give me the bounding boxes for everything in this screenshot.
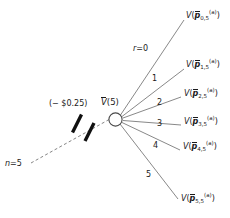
branch-index-0: r=0 xyxy=(133,45,148,53)
terminal-1-func: V xyxy=(186,60,191,69)
cost-label: (− $0.25) xyxy=(49,100,87,108)
terminal-3-func: V xyxy=(184,117,189,126)
terminal-label-5: V(p5,5(a)) xyxy=(181,195,215,203)
stage-n-eq: = xyxy=(10,159,17,168)
terminal-1-superscript: (a) xyxy=(209,58,217,64)
terminal-5-superscript: (a) xyxy=(204,192,212,198)
stage-label-n: n=5 xyxy=(5,160,22,168)
branch-index-3: 3 xyxy=(157,120,162,128)
branch-index-1: 1 xyxy=(152,75,157,83)
branch-r-eq: = xyxy=(136,44,143,53)
terminal-0-subscript: 0,5 xyxy=(200,15,209,21)
branch-line-2 xyxy=(123,97,181,118)
terminal-5-subscript: 5,5 xyxy=(195,198,204,204)
terminal-4-func: V xyxy=(183,142,188,151)
terminal-label-4: V(p4,5(a)) xyxy=(183,143,217,151)
terminal-4-superscript: (a) xyxy=(206,140,214,146)
stage-n-value: 5 xyxy=(17,159,22,168)
tick-mark-2-icon xyxy=(85,123,94,141)
terminal-label-2: V(p2,5(a)) xyxy=(184,90,218,98)
root-node-label: V(5) xyxy=(101,98,119,107)
terminal-4-subscript: 4,5 xyxy=(197,146,206,152)
scenario-tree-diagram: V(5) (− $0.25) n=5 r=0 1 2 3 4 5 V(p0,5(… xyxy=(0,0,230,218)
root-node-V-symbol: V xyxy=(101,98,107,107)
terminal-2-superscript: (a) xyxy=(207,87,215,93)
branch-line-0 xyxy=(121,20,185,115)
terminal-1-subscript: 1,5 xyxy=(200,64,209,70)
incoming-dashed-edge xyxy=(31,119,110,163)
branch-index-5: 5 xyxy=(146,171,151,179)
root-node-circle xyxy=(109,113,122,126)
terminal-label-3: V(p3,5(a)) xyxy=(184,118,218,126)
branch-r-value: 0 xyxy=(143,44,148,53)
terminal-label-0: V(p0,5(a)) xyxy=(186,12,220,20)
branch-line-4 xyxy=(122,123,180,151)
terminal-label-1: V(p1,5(a)) xyxy=(186,61,220,69)
terminal-2-func: V xyxy=(184,89,189,98)
terminal-3-superscript: (a) xyxy=(207,115,215,121)
terminal-3-subscript: 3,5 xyxy=(198,121,207,127)
terminal-0-func: V xyxy=(186,11,191,20)
terminal-0-superscript: (a) xyxy=(209,9,217,15)
diagram-canvas xyxy=(0,0,230,218)
terminal-5-func: V xyxy=(181,194,186,203)
branch-index-4: 4 xyxy=(153,142,158,150)
terminal-2-subscript: 2,5 xyxy=(198,93,207,99)
tick-mark-1-icon xyxy=(73,115,82,133)
branch-line-3 xyxy=(123,121,181,126)
root-node-arg: (5) xyxy=(107,97,119,107)
branch-index-2: 2 xyxy=(157,99,162,107)
